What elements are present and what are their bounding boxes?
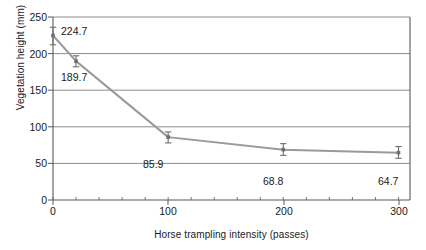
gridlines	[53, 17, 410, 163]
data-point-marker	[74, 59, 78, 63]
error-bars	[50, 27, 402, 158]
chart-figure: Vegetation height (mm) 0 50 100 150 200 …	[0, 0, 426, 250]
data-label: 189.7	[61, 71, 87, 83]
plot-border	[53, 17, 410, 200]
plot-area	[0, 0, 426, 250]
x-axis-major-ticks	[53, 200, 399, 205]
data-point-marker	[397, 151, 401, 155]
data-label: 85.9	[143, 158, 163, 170]
data-point-marker	[166, 135, 170, 139]
data-markers	[51, 34, 400, 155]
data-label: 68.8	[263, 175, 283, 187]
data-label: 64.7	[378, 175, 398, 187]
data-point-marker	[282, 148, 286, 152]
data-point-marker	[51, 34, 55, 38]
data-label: 224.7	[61, 25, 87, 37]
data-series-line	[53, 36, 398, 153]
